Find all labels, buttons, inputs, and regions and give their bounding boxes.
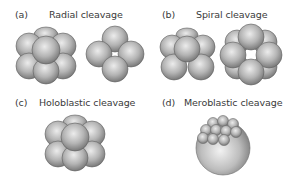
- panel-b-title: Spiral cleavage: [196, 9, 267, 20]
- panel-a-letter: (a): [15, 9, 28, 20]
- meroblastic-embryo: [196, 116, 250, 176]
- cleavage-diagram: [0, 0, 294, 177]
- panel-d-letter: (d): [162, 97, 175, 108]
- holoblastic-8-cell-embryo: [45, 115, 105, 171]
- spiral-8-cell-embryo: [160, 28, 215, 80]
- spiral-top-view: [220, 24, 282, 85]
- panel-c-title: Holoblastic cleavage: [39, 97, 135, 108]
- panel-c-letter: (c): [15, 97, 27, 108]
- panel-d-title: Meroblastic cleavage: [184, 97, 282, 108]
- panel-a-title: Radial cleavage: [49, 9, 123, 20]
- radial-4-cell-top-view: [86, 26, 144, 82]
- radial-8-cell-embryo: [16, 27, 76, 84]
- panel-b-letter: (b): [162, 9, 175, 20]
